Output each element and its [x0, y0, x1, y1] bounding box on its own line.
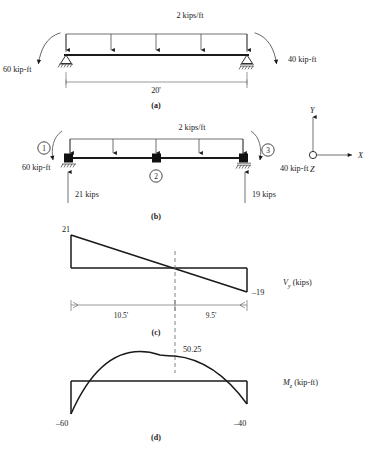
shear-dimension-line: [71, 300, 247, 311]
panel-b-node-1-label: 1: [42, 144, 46, 153]
shear-axis-caption: Vy (kips): [283, 278, 312, 289]
panel-a-distributed-load-label: 2 kips/ft: [176, 11, 204, 20]
panel-a-left-moment-arrow: [38, 30, 60, 67]
panel-a-right-moment-label: 40 kip-ft: [288, 55, 317, 64]
panel-b-node-3-marker: [239, 154, 248, 163]
panel-b-tag: (b): [151, 212, 161, 221]
panel-b-node-2-label: 2: [154, 172, 158, 181]
panel-b-right-moment-label: 40 kip-ft: [280, 164, 309, 173]
svg-text:Mz (kip-ft): Mz (kip-ft): [282, 378, 318, 389]
panel-a-left-support: [58, 55, 73, 67]
panel-b-left-moment-label: 60 kip-ft: [22, 163, 51, 172]
moment-right-value: –40: [233, 419, 246, 428]
panel-b-left-moment-arrow: [52, 131, 62, 160]
panel-b-left-support: [61, 164, 76, 167]
panel-b-left-reaction-label: 21 kips: [75, 190, 99, 199]
coordinate-axes-triad: Y X Z: [309, 106, 364, 174]
moment-peak-value: 50.25: [183, 345, 201, 354]
axis-z-label: Z: [310, 165, 315, 174]
moment-axis-caption: Mz (kip-ft): [282, 378, 318, 389]
moment-curve: [71, 352, 247, 414]
shear-axis-units: (kips): [293, 278, 312, 287]
panel-b-load-arrows: [70, 139, 243, 153]
panel-d-tag: (d): [151, 433, 161, 442]
panel-a-load-arrows: [66, 34, 247, 50]
panel-b-node-1: 1: [38, 142, 50, 154]
beam-analysis-figure: 2 kips/ft: [0, 0, 380, 453]
panel-b-node-3: 3: [262, 144, 274, 156]
panel-b-right-reaction-label: 19 kips: [252, 190, 276, 199]
panel-b-right-support: [236, 163, 251, 168]
panel-a-right-moment-arrow: [255, 30, 277, 67]
panel-b-distributed-load-label: 2 kips/ft: [178, 123, 206, 132]
panel-c-tag: (c): [152, 328, 161, 337]
panel-b-node-2: 2: [150, 170, 162, 182]
shear-dim-right-label: 9.5': [206, 311, 217, 320]
axis-y-label: Y: [310, 106, 316, 115]
panel-a-left-moment-label: 60 kip-ft: [3, 65, 32, 74]
shear-left-value: 21: [62, 225, 70, 234]
panel-b-node-3-label: 3: [266, 146, 270, 155]
panel-a-span-label: 20': [151, 86, 161, 95]
shear-dim-left-label: 10.5': [114, 311, 129, 320]
shear-right-value: –19: [251, 288, 264, 297]
moment-left-value: –60: [55, 419, 68, 428]
axis-x-label: X: [357, 151, 364, 160]
panel-d-moment-diagram: 50.25 –60 –40 Mz (kip-ft) (d): [55, 345, 318, 442]
panel-b-node-1-marker: [64, 154, 73, 163]
panel-a-right-support: [239, 55, 254, 69]
panel-b: 2 kips/ft: [22, 106, 364, 221]
axis-z-origin-icon: [309, 151, 316, 158]
svg-text:Vy (kips): Vy (kips): [283, 278, 312, 289]
panel-b-node-2-marker: [152, 154, 161, 163]
panel-a: 2 kips/ft: [3, 11, 317, 110]
shear-slope-line: [71, 235, 247, 292]
panel-b-right-moment-arrow: [251, 131, 261, 160]
panel-a-tag: (a): [151, 101, 161, 110]
moment-axis-units: (kip-ft): [294, 378, 318, 387]
